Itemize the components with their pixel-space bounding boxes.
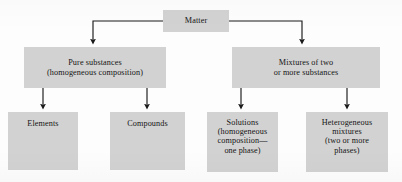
node-pure-substances: Pure substances (homogeneous composition… [24, 47, 166, 88]
matter-classification-diagram: Matter Pure substances (homogeneous comp… [0, 0, 402, 182]
node-solutions-label: Solutions (homogeneous composition— one … [207, 118, 278, 155]
node-compounds: Compounds [110, 112, 185, 170]
node-matter: Matter [163, 10, 229, 32]
node-matter-label: Matter [163, 16, 229, 25]
node-solutions: Solutions (homogeneous composition— one … [207, 112, 278, 172]
node-compounds-label: Compounds [110, 119, 185, 128]
node-elements: Elements [8, 112, 78, 170]
node-pure-substances-label: Pure substances (homogeneous composition… [24, 58, 166, 76]
node-heterogeneous-mixtures: Heterogeneous mixtures (two or more phas… [306, 112, 388, 172]
node-mixtures-label: Mixtures of two or more substances [232, 58, 380, 76]
node-elements-label: Elements [8, 119, 78, 128]
node-mixtures: Mixtures of two or more substances [232, 47, 380, 88]
node-heterogeneous-mixtures-label: Heterogeneous mixtures (two or more phas… [306, 118, 388, 155]
